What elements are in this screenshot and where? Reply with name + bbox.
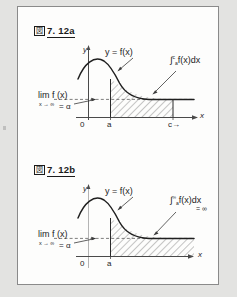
textbook-page: 図7. 12a [17, 6, 219, 285]
figure-a-curve [78, 59, 194, 99]
figure-b-shaded-region [111, 218, 195, 256]
figure-b-limit-pointer [74, 239, 94, 243]
figure-a-x-axis-arrow [192, 115, 198, 119]
figure-b-svg [18, 146, 219, 285]
figure-a-integral-pointer [154, 71, 176, 93]
figure-a-limit-pointer [74, 100, 94, 104]
figure-a-y-axis-arrow [87, 45, 91, 50]
figure-b-curve [78, 198, 194, 238]
page-margin-speck [3, 126, 6, 130]
figure-7-12a: 図7. 12a [18, 7, 219, 146]
figure-b-plot: y x y = f(x) ∫∞af(x)dx = ∞ lim f (x) x →… [18, 146, 219, 285]
figure-7-12b: 図7. 12b [18, 146, 219, 285]
figure-b-y-axis-arrow [87, 184, 91, 189]
figure-a-plot: y x y = f(x) ∫caf(x)dx lim f (x) x → ∞ =… [18, 7, 219, 146]
figure-b-integral-pointer-arrow [153, 231, 158, 235]
figure-a-svg [18, 7, 219, 146]
figure-b-limit-pointer-arrow [91, 237, 96, 241]
figure-a-limit-pointer-arrow [91, 98, 96, 102]
figure-a-integral-pointer-arrow [152, 90, 157, 94]
figure-b-integral-pointer [155, 212, 176, 234]
